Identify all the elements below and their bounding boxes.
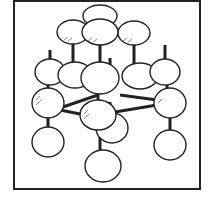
atom (32, 127, 64, 157)
atom (154, 88, 186, 118)
lattice-model-illustration (0, 0, 214, 202)
atom (118, 21, 150, 45)
atom (32, 88, 64, 118)
atom (81, 62, 119, 94)
atom (80, 100, 116, 130)
atom (85, 150, 121, 182)
atom (150, 59, 180, 85)
atom (154, 130, 186, 160)
atom (82, 19, 118, 45)
